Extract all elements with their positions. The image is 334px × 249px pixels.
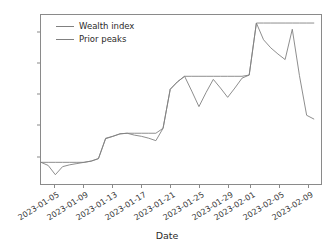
x-axis-tick-mark: [83, 185, 84, 188]
chart-legend: Wealth index Prior peaks: [52, 19, 138, 46]
legend-label-wealth-index: Wealth index: [79, 21, 134, 31]
chart-figure: 10001050110011501200 Wealth index Prior …: [0, 0, 334, 249]
legend-label-prior-peaks: Prior peaks: [79, 34, 126, 44]
x-axis-tick-mark: [199, 185, 200, 188]
legend-swatch-wealth-index: [56, 26, 74, 27]
x-axis-tick-mark: [228, 185, 229, 188]
legend-item-wealth-index: Wealth index: [56, 21, 134, 31]
legend-swatch-prior-peaks: [56, 39, 74, 40]
x-axis-tick-mark: [112, 185, 113, 188]
x-axis-tick-mark: [170, 185, 171, 188]
x-axis-tick-mark: [279, 185, 280, 188]
x-axis-tick-mark: [308, 185, 309, 188]
x-axis-tick-mark: [250, 185, 251, 188]
x-axis-tick-mark: [141, 185, 142, 188]
legend-item-prior-peaks: Prior peaks: [56, 34, 134, 44]
x-axis-label: Date: [0, 230, 334, 241]
x-axis-tick-mark: [54, 185, 55, 188]
